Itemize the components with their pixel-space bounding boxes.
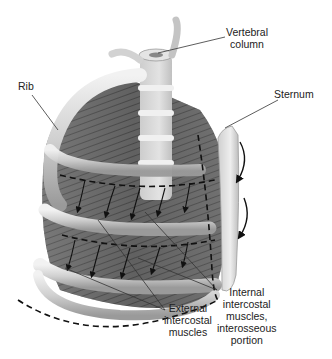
movement-arrows [238,142,247,236]
leader-vertebral-column [158,37,225,53]
label-rib: Rib [18,80,34,92]
label-sternum: Sternum [274,88,314,100]
leader-sternum [225,100,278,128]
label-internal-intercostal: Internal intercostal muscles, interosseo… [217,286,277,346]
leader-rib [32,95,58,130]
label-external-intercostal: External intercostal muscles [164,302,212,338]
rib-cage-diagram: Vertebral column Rib Sternum Internal in… [0,0,332,359]
label-vertebral-column: Vertebral column [226,26,268,50]
